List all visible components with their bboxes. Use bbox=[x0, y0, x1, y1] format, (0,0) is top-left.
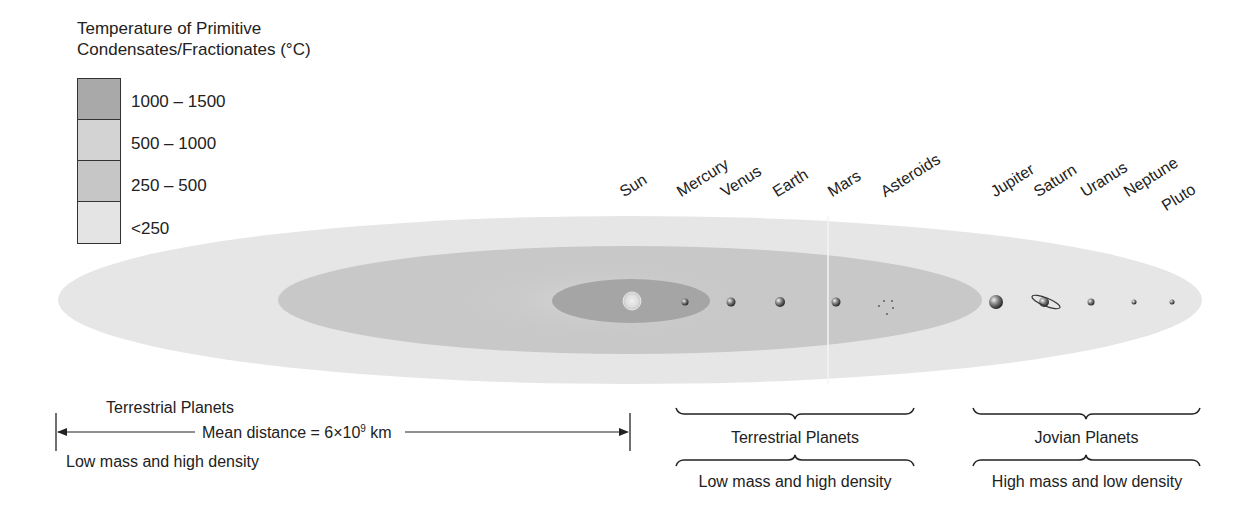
jovian-group-subtitle: High mass and low density bbox=[966, 473, 1208, 491]
mercury-icon bbox=[682, 299, 689, 306]
mars-icon bbox=[832, 298, 841, 307]
terrestrial-group-subtitle: Low mass and high density bbox=[672, 473, 918, 491]
terrestrial-group-title: Terrestrial Planets bbox=[676, 429, 914, 447]
earth-icon bbox=[775, 297, 785, 307]
sun-icon bbox=[623, 292, 641, 310]
terrestrial-bottom-brace bbox=[676, 455, 914, 466]
mean-distance-text: Mean distance = 6×10 bbox=[202, 424, 360, 441]
jovian-group-title: Jovian Planets bbox=[973, 429, 1200, 447]
neptune-icon bbox=[1132, 300, 1137, 305]
bottom-left-subtitle: Low mass and high density bbox=[66, 453, 259, 471]
mean-distance-unit: km bbox=[366, 424, 392, 441]
arrow-right-icon bbox=[619, 428, 629, 436]
bottom-left-title: Terrestrial Planets bbox=[106, 399, 234, 417]
terrestrial-top-brace bbox=[676, 408, 914, 419]
uranus-icon bbox=[1088, 299, 1095, 306]
jovian-bottom-brace bbox=[973, 455, 1200, 466]
jupiter-icon bbox=[989, 295, 1003, 309]
pluto-icon bbox=[1170, 300, 1175, 305]
jovian-top-brace bbox=[973, 408, 1200, 419]
mean-distance-label: Mean distance = 6×109 km bbox=[198, 423, 396, 442]
arrow-left-icon bbox=[57, 428, 67, 436]
venus-icon bbox=[727, 298, 736, 307]
